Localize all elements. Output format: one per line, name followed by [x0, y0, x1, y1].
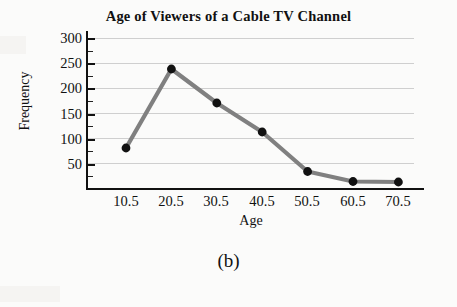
figure-caption: (b) — [0, 250, 457, 272]
x-tick-label-40-5: 40.5 — [249, 193, 274, 210]
y-tick-label-250: 250 — [38, 56, 82, 71]
x-tick-label-20-5: 20.5 — [158, 193, 183, 210]
x-axis-line — [86, 188, 424, 190]
x-tick-label-group: 10.5 20.5 30.5 40.5 50.5 60.5 70.5 — [88, 193, 414, 213]
y-tick-300 — [88, 38, 95, 40]
y-tick-150 — [88, 114, 95, 116]
x-tick-label-70-5: 70.5 — [385, 193, 410, 210]
x-tick-label-30-5: 30.5 — [203, 193, 228, 210]
y-tick-minor-175 — [88, 101, 93, 102]
y-tick-minor-75 — [88, 151, 93, 152]
y-tick-250 — [88, 63, 95, 65]
gridline-50 — [88, 163, 414, 164]
y-tick-minor-225 — [88, 76, 93, 77]
y-tick-label-300: 300 — [38, 31, 82, 46]
gridline-200 — [88, 88, 414, 89]
x-tick-label-50-5: 50.5 — [294, 193, 319, 210]
y-tick-label-50: 50 — [38, 157, 82, 172]
gridline-250 — [88, 63, 414, 64]
y-axis-title: Frequency — [17, 59, 33, 143]
y-tick-label-150: 150 — [38, 107, 82, 122]
gridline-100 — [88, 138, 414, 139]
figure-panel: Age of Viewers of a Cable TV Channel 300… — [0, 0, 457, 307]
plot-area — [88, 32, 414, 188]
x-tick-label-10-5: 10.5 — [113, 193, 138, 210]
y-tick-label-100: 100 — [38, 132, 82, 147]
y-tick-label-200: 200 — [38, 81, 82, 96]
gridline-150 — [88, 113, 414, 114]
y-tick-200 — [88, 88, 95, 90]
x-axis-title: Age — [88, 213, 414, 229]
x-tick-label-60-5: 60.5 — [340, 193, 365, 210]
gridline-300 — [88, 38, 414, 39]
y-tick-minor-275 — [88, 51, 93, 52]
y-tick-100 — [88, 139, 95, 141]
y-tick-minor-25 — [88, 176, 93, 177]
y-tick-minor-125 — [88, 126, 93, 127]
y-tick-50 — [88, 164, 95, 166]
scan-artifact-left — [0, 36, 26, 54]
